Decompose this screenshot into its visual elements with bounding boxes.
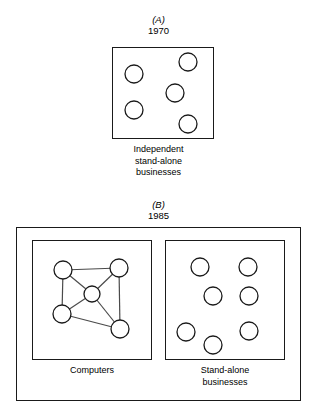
standalone-businesses-caption: Stand-alone businesses: [165, 365, 285, 388]
business-circle: [240, 322, 258, 340]
computers-caption: Computers: [32, 365, 152, 377]
computer-node: [110, 259, 128, 277]
business-circle: [239, 258, 257, 276]
computer-node: [84, 286, 100, 302]
standalone-caption-line2: businesses: [202, 377, 247, 387]
computer-node: [111, 320, 129, 338]
business-circle: [177, 323, 195, 341]
business-circle: [191, 258, 209, 276]
computer-node: [54, 261, 72, 279]
figure-container: (A) 1970 Independent stand-alone busines…: [0, 0, 317, 416]
business-circle: [204, 287, 222, 305]
business-circle: [204, 336, 222, 354]
panel-b-graphics-layer: [0, 0, 317, 416]
computers-caption-label: Computers: [70, 365, 114, 375]
business-circle: [240, 287, 258, 305]
standalone-caption-line1: Stand-alone: [201, 365, 250, 375]
computer-node: [53, 305, 71, 323]
